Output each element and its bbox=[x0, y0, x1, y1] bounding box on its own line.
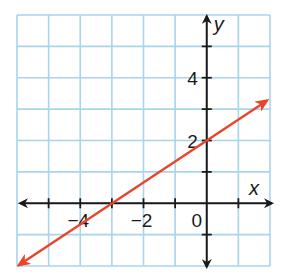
y-tick-label: 4 bbox=[187, 68, 198, 89]
x-tick-label: 0 bbox=[191, 210, 202, 231]
x-axis-label: x bbox=[248, 177, 260, 199]
x-tick-label: −2 bbox=[131, 210, 153, 231]
coordinate-plane: −4−2024 x y bbox=[0, 0, 287, 278]
tick-labels: −4−2024 bbox=[67, 68, 202, 232]
y-axis-label: y bbox=[212, 13, 225, 35]
